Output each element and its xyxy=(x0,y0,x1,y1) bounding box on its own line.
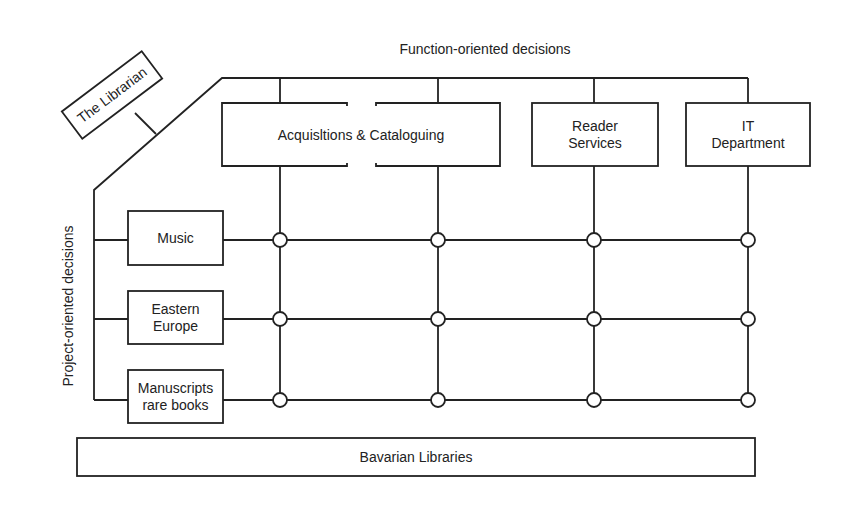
function-box-reader: ReaderServices xyxy=(532,103,658,166)
matrix-organization-diagram: Acquisltions & CataloguingReaderServices… xyxy=(0,0,859,510)
matrix-node-r1-c3 xyxy=(587,233,601,247)
boxes: Acquisltions & CataloguingReaderServices… xyxy=(128,103,810,423)
project-box-manuscripts: Manuscriptsrare books xyxy=(128,370,223,423)
matrix-node-r2-c4 xyxy=(741,312,755,326)
project-box-eastern: EasternEurope xyxy=(128,291,223,344)
project-box-music: Music xyxy=(128,211,223,265)
project-box-music-label: Music xyxy=(157,230,194,246)
matrix-node-r2-c1 xyxy=(273,312,287,326)
function-box-it-label: IT xyxy=(742,118,755,134)
matrix-node-r3-c3 xyxy=(587,393,601,407)
matrix-node-r1-c4 xyxy=(741,233,755,247)
matrix-node-r3-c1 xyxy=(273,393,287,407)
project-box-manuscripts-label: rare books xyxy=(142,397,208,413)
librarian-connector xyxy=(135,113,156,134)
function-box-acq: Acquisltions & Cataloguing xyxy=(222,103,500,166)
project-axis-title: Project-oriented decisions xyxy=(60,225,76,386)
project-box-eastern-label: Europe xyxy=(153,318,198,334)
matrix-node-r1-c2 xyxy=(431,233,445,247)
function-box-it-label: Department xyxy=(711,135,784,151)
project-box-manuscripts-label: Manuscripts xyxy=(138,380,213,396)
matrix-node-r3-c4 xyxy=(741,393,755,407)
function-box-reader-label: Reader xyxy=(572,118,618,134)
project-box-eastern-label: Eastern xyxy=(151,301,199,317)
matrix-node-r1-c1 xyxy=(273,233,287,247)
bavarian-libraries-label: Bavarian Libraries xyxy=(360,449,473,465)
function-box-acq-label: Acquisltions & Cataloguing xyxy=(278,127,445,143)
matrix-node-r3-c2 xyxy=(431,393,445,407)
matrix-nodes xyxy=(273,233,755,407)
matrix-node-r2-c2 xyxy=(431,312,445,326)
function-box-reader-label: Services xyxy=(568,135,622,151)
bavarian-libraries-box: Bavarian Libraries xyxy=(77,438,755,476)
function-axis-title: Function-oriented decisions xyxy=(399,41,570,57)
function-box-it: ITDepartment xyxy=(686,103,810,166)
matrix-node-r2-c3 xyxy=(587,312,601,326)
